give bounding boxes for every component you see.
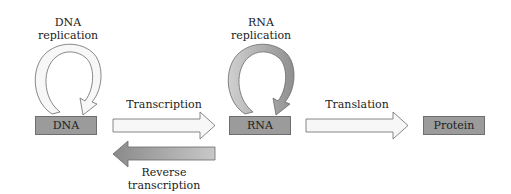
- rna-replication-label-line2: replication: [229, 29, 293, 42]
- rna-node: RNA: [229, 116, 291, 135]
- dna-replication-loop-arrow: [35, 44, 101, 115]
- reverse-transcription-label-line1: Reverse: [112, 166, 216, 179]
- transcription-label: Transcription: [112, 98, 216, 111]
- dna-replication-label-line1: DNA: [36, 16, 100, 29]
- dna-replication-label-line2: replication: [36, 29, 100, 42]
- dna-node: DNA: [35, 116, 97, 135]
- rna-replication-label-line1: RNA: [229, 16, 293, 29]
- translation-label: Translation: [305, 98, 409, 111]
- protein-node: Protein: [423, 116, 485, 135]
- rna-replication-label: RNA replication: [229, 16, 293, 42]
- transcription-arrow: [113, 112, 215, 139]
- rna-replication-loop-arrow: [228, 44, 294, 115]
- reverse-transcription-label: Reverse transcription: [112, 166, 216, 192]
- reverse-transcription-arrow: [113, 141, 215, 167]
- reverse-transcription-label-line2: transcription: [112, 179, 216, 192]
- dna-replication-label: DNA replication: [36, 16, 100, 42]
- translation-arrow: [306, 112, 408, 139]
